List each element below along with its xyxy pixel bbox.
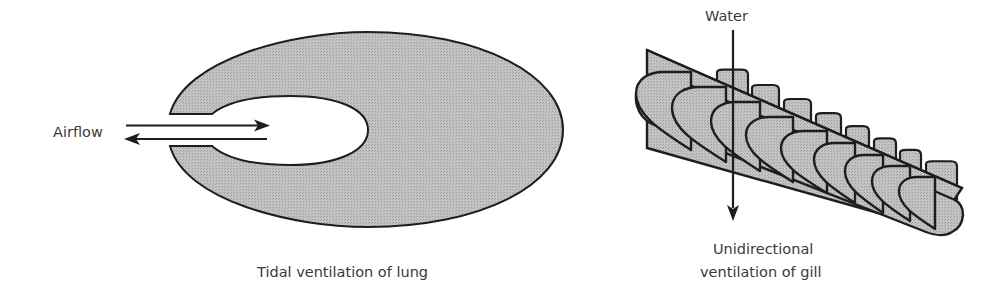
gill-diagram: Water Unidirectional ventilation of gill	[636, 8, 963, 280]
diagram-canvas: Airflow Tidal ventilation of lung Water …	[0, 0, 1007, 288]
lung-body	[170, 32, 563, 227]
gill-caption-line1: Unidirectional	[713, 241, 813, 257]
lung-diagram: Airflow Tidal ventilation of lung	[53, 32, 563, 280]
airflow-out-arrow	[124, 133, 267, 145]
water-label: Water	[705, 8, 748, 24]
gill-caption-line2: ventilation of gill	[700, 264, 822, 280]
airflow-in-arrow	[126, 120, 270, 132]
lung-caption: Tidal ventilation of lung	[256, 264, 428, 280]
airflow-label: Airflow	[53, 124, 103, 140]
